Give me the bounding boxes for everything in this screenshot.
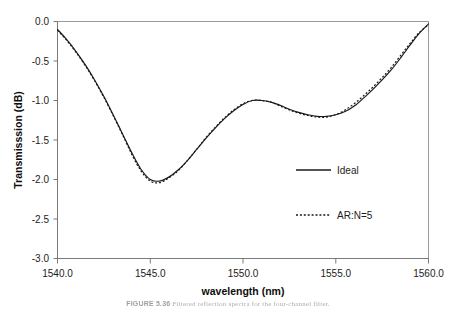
y-axis-title: Transmisssion (dB) — [12, 91, 24, 188]
figure-caption-number: FIGURE 5.36 — [126, 300, 170, 307]
figure-caption: FIGURE 5.36 Filtered reflection spectra … — [0, 300, 456, 308]
y-tick-label: -0.5 — [32, 56, 50, 67]
figure-caption-text: Filtered reflection spectra for the four… — [172, 300, 329, 308]
x-tick-label: 1545.0 — [135, 268, 166, 279]
x-tick-label: 1550.0 — [228, 268, 259, 279]
x-tick-label: 1560.0 — [413, 268, 444, 279]
y-tick-label: -1.0 — [32, 95, 50, 106]
plot-area-frame — [58, 22, 429, 259]
y-axis-ticks — [54, 22, 58, 259]
y-tick-label: -3.0 — [32, 253, 50, 264]
y-tick-label: -2.5 — [32, 214, 50, 225]
figure-root: 0.0 -0.5 -1.0 -1.5 -2.0 -2.5 -3.0 1540.0… — [0, 0, 456, 316]
y-axis-tick-labels: 0.0 -0.5 -1.0 -1.5 -2.0 -2.5 -3.0 — [32, 16, 50, 264]
x-axis-title: wavelength (nm) — [201, 285, 285, 297]
y-tick-label: -2.0 — [32, 174, 50, 185]
y-tick-label: 0.0 — [35, 16, 49, 27]
x-axis-tick-labels: 1540.0 1545.0 1550.0 1555.0 1560.0 — [42, 268, 444, 279]
transmission-spectrum-chart: 0.0 -0.5 -1.0 -1.5 -2.0 -2.5 -3.0 1540.0… — [0, 0, 456, 300]
x-axis-ticks — [58, 259, 429, 264]
x-tick-label: 1555.0 — [321, 268, 352, 279]
y-tick-label: -1.5 — [32, 135, 50, 146]
legend-label-ar-n5: AR:N=5 — [337, 210, 373, 221]
x-tick-label: 1540.0 — [42, 268, 73, 279]
legend-label-ideal: Ideal — [337, 165, 359, 176]
